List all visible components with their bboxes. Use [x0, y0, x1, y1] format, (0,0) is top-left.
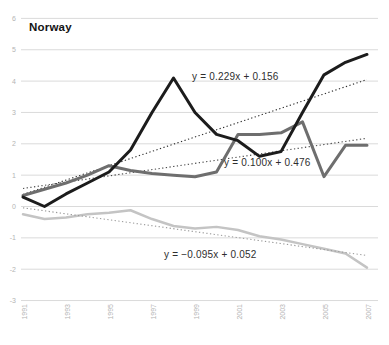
x-tick-label: 2005: [322, 304, 329, 320]
gray-line: [23, 122, 367, 196]
trend-equation-gray: y = 0.100x + 0.476: [224, 157, 310, 168]
y-tick-label: 3: [12, 109, 16, 116]
x-tick-label: 1993: [64, 304, 71, 320]
x-tick-label: 2007: [365, 304, 372, 320]
y-tick-label: 2: [12, 140, 16, 147]
chart-canvas: 6543210-1-2-3199119931995199719992001200…: [0, 0, 389, 345]
y-tick-label: -1: [10, 234, 16, 241]
x-tick-label: 1995: [107, 304, 114, 320]
x-tick-label: 2003: [279, 304, 286, 320]
trend-equation-lightgray: y = −0.095x + 0.052: [164, 249, 256, 260]
chart-title: Norway: [29, 21, 72, 33]
x-axis-labels: 199119931995199719992001200320052007: [21, 304, 372, 320]
x-tick-label: 1997: [150, 304, 157, 320]
x-tick-label: 1999: [193, 304, 200, 320]
trend-equation-black: y = 0.229x + 0.156: [192, 71, 278, 82]
y-tick-label: 0: [12, 203, 16, 210]
y-tick-label: 4: [12, 78, 16, 85]
y-tick-label: -3: [10, 297, 16, 304]
y-tick-label: 5: [12, 46, 16, 53]
y-tick-label: -2: [10, 266, 16, 273]
y-tick-label: 1: [12, 172, 16, 179]
x-tick-label: 1991: [21, 304, 28, 320]
line-chart: 6543210-1-2-3199119931995199719992001200…: [0, 0, 389, 345]
x-tick-label: 2001: [236, 304, 243, 320]
y-tick-label: 6: [12, 15, 16, 22]
y-axis-labels: 6543210-1-2-3: [10, 15, 16, 304]
